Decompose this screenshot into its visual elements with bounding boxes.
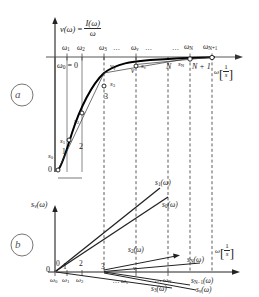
panel-b-origin-zero: 0: [46, 265, 50, 274]
btick-omega2-sub: 2: [81, 279, 83, 284]
panel-a-y-arrowhead: [52, 17, 57, 24]
toptick-omegaN: ωN: [184, 42, 193, 51]
knot-point-3: [102, 84, 106, 88]
panel-b-x-arrowhead: [232, 269, 240, 275]
linelabel-sNm1-arg: (ω): [203, 276, 213, 285]
panel-a-y-axis-label: ν(ω) = I(ω) ω: [60, 19, 101, 37]
btick-omega0-sub: 0: [55, 279, 57, 284]
btick-omega0: ω0: [50, 276, 57, 284]
slope-snu-sub: ν: [144, 65, 146, 70]
curvepoint-N: N: [166, 62, 171, 71]
slope-s2: s2: [74, 117, 79, 125]
slope-s0: s0: [48, 152, 53, 160]
nu-sub-nu-label: νν: [110, 62, 116, 71]
toptick-omegaN1: ωN+1: [203, 42, 217, 51]
toptick-omega3: ω3: [99, 43, 107, 52]
equals-sign: =: [78, 24, 83, 34]
btick-omeganu-sub: ν: [126, 280, 128, 285]
b-index-0: 0: [56, 259, 60, 268]
b-index-2: 2: [79, 259, 83, 268]
btick-omeganu: … ων: [113, 277, 128, 285]
curvepoint-2: 2: [79, 142, 83, 151]
linelabel-s1-arg: (ω): [160, 178, 170, 187]
slope-s1: s1: [60, 137, 65, 145]
btick-omega1-sub: 1: [67, 279, 69, 284]
linelabel-s0-arg: (ω): [167, 200, 177, 209]
knot-point-nu: [134, 64, 138, 68]
knot-point-N: [188, 57, 192, 61]
curvepoint-nu: ν: [131, 66, 134, 75]
slope-s2-sub: 2: [77, 120, 79, 125]
slope-s0-sub: 0: [51, 155, 53, 160]
panel-b-x-unit: ω[1s]: [215, 243, 234, 258]
panel-b-y-axis-label: sν(ω): [31, 200, 48, 209]
toptick-omega1: ω1: [62, 43, 70, 52]
linelabel-s2: s2(ω): [128, 245, 144, 254]
linelabel-s3-arg: (ω): [156, 284, 166, 293]
linelabel-s3: s3(ω): [151, 284, 167, 293]
toptick-ellipsis-1: …: [113, 44, 120, 52]
btick-omega2: ω2: [76, 276, 83, 284]
b-index-nu: ν: [133, 264, 136, 272]
toptick-omega2-sub: 2: [82, 46, 85, 52]
figure-root: a ν(ω) = I(ω) ω ω1 ω2 ω3 … ων … … ωN ωN+…: [0, 0, 259, 297]
btick-omeganu-sym: … ω: [113, 277, 126, 285]
knot-point-2: [80, 111, 84, 115]
b-index-3: 3: [101, 262, 105, 271]
btick-omegaN-sub: N: [168, 279, 171, 284]
knot-point-N1: [210, 55, 214, 59]
slope-s3-sub: 3: [113, 83, 115, 88]
toptick-omega1-sub: 1: [67, 46, 70, 52]
slope-sN: sN: [178, 60, 184, 68]
knot-point-0: [56, 168, 60, 172]
panel-b-y-arg: (ω): [37, 200, 48, 209]
btick-omegaN-sym: … ω: [155, 276, 168, 284]
curvepoint-0: 0: [48, 165, 52, 174]
line-s2-arrowhead: [173, 254, 180, 259]
panel-b-y-arrowhead: [52, 205, 57, 212]
linelabel-s1: s1(ω): [155, 178, 171, 187]
btick-omegaN: … ωN: [155, 276, 171, 284]
toptick-omega2: ω2: [77, 43, 85, 52]
slope-s1-sub: 1: [63, 140, 65, 145]
linelabel-s2-arg: (ω): [133, 245, 143, 254]
slope-snu: sν: [141, 62, 146, 70]
line-s0: [56, 197, 168, 271]
toptick-ellipsis-3: …: [172, 44, 179, 52]
line-s1: [56, 188, 160, 271]
btick-omega1: ω1: [62, 276, 69, 284]
nu-sub-nu-sub: ν: [113, 65, 115, 71]
curvepoint-N1: N + 1: [192, 62, 211, 71]
curvepoint-1: 1: [62, 147, 66, 156]
origin-note-a: ω0 = 0: [57, 61, 78, 70]
linelabel-s0: s0(ω): [162, 200, 178, 209]
linelabel-snu-arg: (ω): [201, 285, 211, 294]
panel-a-graphics: [11, 17, 243, 272]
curvepoint-3: 3: [104, 92, 108, 101]
panel-a-x-arrowhead: [235, 54, 243, 60]
origin-equals-zero: = 0: [67, 61, 78, 70]
knot-point-1: [67, 138, 71, 142]
slope-s3: s3: [110, 80, 115, 88]
linelabel-sN: sN(ω): [187, 255, 204, 264]
toptick-omeganu: ων: [131, 43, 139, 52]
linelabel-snu: sν(ω): [196, 285, 211, 294]
slope-sN-sub: N: [181, 63, 184, 68]
fraction-denominator: ω: [84, 29, 101, 38]
panel-b-badge-label: b: [15, 238, 21, 250]
toptick-omegaN1-sub: N+1: [208, 45, 217, 51]
toptick-omegaN-sub: N: [189, 45, 193, 51]
b-index-1: 1: [63, 262, 67, 271]
panel-a-badge-label: a: [15, 88, 21, 100]
fraction-I-over-omega: I(ω) ω: [84, 19, 101, 37]
panel-a-x-unit: ω[1s]: [214, 64, 233, 79]
toptick-omeganu-sub: ν: [136, 46, 138, 52]
nu-of-omega: ν(ω): [60, 24, 75, 34]
linelabel-sN-arg: (ω): [194, 255, 204, 264]
origin-omega-sub: 0: [63, 64, 66, 70]
toptick-ellipsis-2: …: [145, 44, 152, 52]
toptick-omega3-sub: 3: [104, 46, 107, 52]
linelabel-sNminus1: sN−1(ω): [191, 276, 213, 285]
